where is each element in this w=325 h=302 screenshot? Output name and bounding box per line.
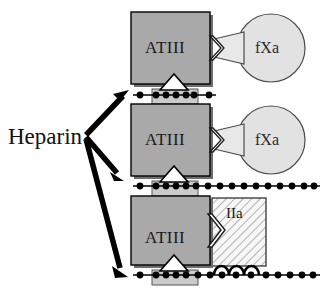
panel-2-atiii-label: ATIII bbox=[145, 130, 185, 150]
heparin-label: Heparin bbox=[8, 124, 82, 150]
arrow-head-1 bbox=[113, 90, 129, 101]
panel-1-fxa-neck bbox=[214, 32, 244, 64]
panel-1-fxa-label: fXa bbox=[255, 39, 279, 57]
panel-3-iia-label: IIa bbox=[226, 205, 243, 222]
heparin-arrows bbox=[86, 90, 129, 278]
panel-1 bbox=[131, 12, 305, 104]
panel-1-atiii-label: ATIII bbox=[145, 38, 185, 58]
panel-2 bbox=[131, 104, 320, 196]
panel-2-fxa-neck bbox=[214, 124, 244, 156]
panel-2-fxa-label: fXa bbox=[255, 131, 279, 149]
figure-canvas: Heparin ATIII fXa ATIII fXa ATIII IIa bbox=[0, 0, 325, 302]
panel-3-atiii-label: ATIII bbox=[145, 228, 185, 248]
arrow-to-panel-1 bbox=[86, 96, 123, 135]
arrow-head-2 bbox=[110, 172, 124, 181]
